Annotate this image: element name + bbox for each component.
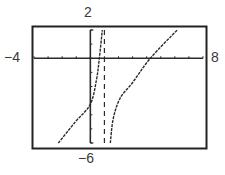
curves <box>58 30 177 143</box>
screen-frame <box>33 27 207 149</box>
axes <box>34 30 203 143</box>
right-branch-curve <box>110 30 177 143</box>
left-branch-curve <box>58 30 102 143</box>
graph-screen <box>0 0 225 175</box>
